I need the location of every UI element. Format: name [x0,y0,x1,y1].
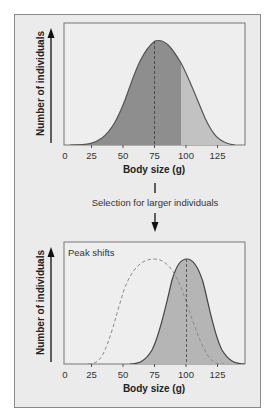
top-x-tick-0: 0 [50,150,80,161]
selection-label: Selection for larger individuals [55,197,255,208]
top-x-tick-50: 50 [108,150,138,161]
peak-shifts-annotation: Peak shifts [68,247,114,258]
top-x-axis-label: Body size (g) [74,164,234,175]
bottom-y-arrowhead-icon [48,247,55,257]
bottom-y-axis-label: Number of individuals [35,243,46,363]
bottom-x-tick-100: 100 [171,369,201,380]
bottom-x-tick-0: 0 [50,369,80,380]
top-y-axis-label: Number of individuals [35,24,46,144]
top-x-tick-25: 25 [77,150,107,161]
bottom-x-tick-25: 25 [77,369,107,380]
bottom-x-tick-50: 50 [108,369,138,380]
bottom-x-axis-label: Body size (g) [74,383,234,394]
top-x-tick-75: 75 [140,150,170,161]
top-y-arrowhead-icon [48,28,55,38]
top-x-tick-125: 125 [203,150,233,161]
transition-arrowhead-icon [152,222,159,232]
bottom-x-tick-75: 75 [140,369,170,380]
top-x-tick-100: 100 [171,150,201,161]
bottom-x-tick-125: 125 [203,369,233,380]
